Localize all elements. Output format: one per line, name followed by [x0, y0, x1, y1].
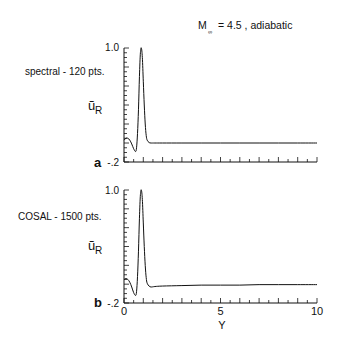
method-label: spectral - 120 pts.	[25, 66, 104, 77]
panel-b: COSAL - 1500 pts. ũ R b 1.0 -.2 0510 Y	[18, 185, 323, 331]
panel-label: b	[94, 295, 102, 310]
y-axis-label: ũ R	[88, 238, 102, 256]
x-tick-label: 10	[311, 305, 323, 317]
ticks-a	[124, 48, 317, 162]
x-tick-labels: 0510	[121, 305, 323, 317]
y-axis-label-sub: R	[95, 245, 102, 256]
method-label: COSAL - 1500 pts.	[18, 211, 102, 222]
title-mach-subscript: ∞	[208, 29, 212, 35]
x-axis-label: Y	[218, 319, 226, 331]
x-tick-label: 5	[217, 305, 223, 317]
y-tick-label-bottom: -.2	[107, 157, 119, 168]
y-tick-label-bottom: -.2	[107, 298, 119, 309]
chart-figure: M ∞ = 4.5 , adiabatic spectral - 120 pts…	[0, 0, 337, 349]
panel-label: a	[94, 155, 102, 170]
ticks-b	[124, 190, 317, 303]
y-axis-label: ũ R	[88, 98, 102, 116]
series-line-cosal	[124, 190, 317, 296]
title-mach-symbol: M	[198, 19, 207, 31]
axes-b	[124, 190, 317, 303]
series-line-spectral	[124, 48, 317, 152]
y-tick-label-top: 1.0	[105, 185, 119, 196]
panel-a: spectral - 120 pts. ũ R a 1.0 -.2	[25, 42, 317, 170]
axes-a	[124, 48, 317, 162]
y-tick-label-top: 1.0	[105, 42, 119, 53]
y-axis-label-sub: R	[95, 105, 102, 116]
figure-title: M ∞ = 4.5 , adiabatic	[198, 19, 292, 35]
title-text: = 4.5 , adiabatic	[218, 19, 292, 31]
x-tick-label: 0	[121, 305, 127, 317]
